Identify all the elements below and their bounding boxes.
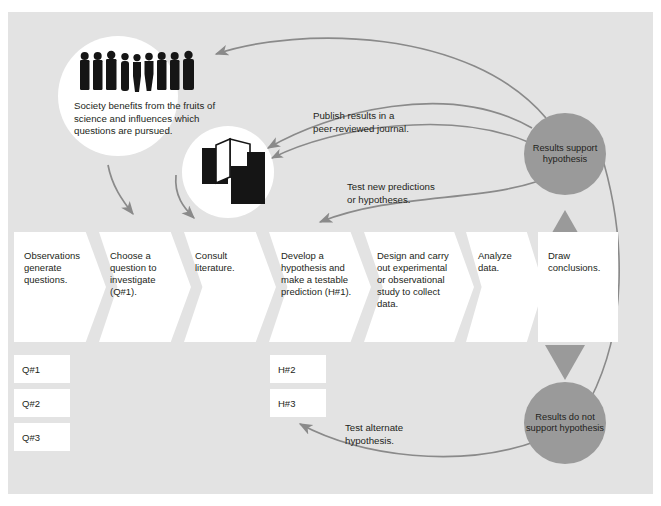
outcome-results-support-label: Results support hypothesis: [524, 143, 606, 166]
question-box-q1-label: Q#1: [22, 364, 40, 376]
annotation-test-alternate-line1: Test alternate: [345, 421, 495, 434]
outcome-results-support[interactable]: Results support hypothesis: [524, 113, 606, 195]
flow-step-consult-label: Consult literature.: [195, 250, 255, 274]
outcome-results-not-support[interactable]: Results do not support hypothesis: [524, 382, 606, 464]
literature-halo: [182, 126, 274, 218]
flow-step-analyze-label: Analyze data.: [478, 250, 530, 274]
question-box-q3-label: Q#3: [22, 432, 40, 444]
annotation-test-alternate-line2: hypothesis.: [345, 434, 495, 447]
flow-step-choose-label: Choose a question to investigate (Q#1).: [110, 250, 172, 298]
question-box-q2-label: Q#2: [22, 398, 40, 410]
annotation-test-new-line2: or hypotheses.: [347, 193, 497, 206]
annotation-publish-line1: Publish results in a: [313, 109, 463, 122]
annotation-test-alternate: Test alternate hypothesis.: [345, 421, 495, 447]
society-halo: [58, 36, 178, 156]
annotation-test-new-line1: Test new predictions: [347, 180, 497, 193]
annotation-test-new: Test new predictions or hypotheses.: [347, 180, 497, 206]
annotation-publish: Publish results in a peer-reviewed journ…: [313, 109, 463, 135]
flow-step-conclusions-label: Draw conclusions.: [548, 250, 610, 274]
hypothesis-box-h3-label: H#3: [278, 398, 295, 410]
diagram-canvas: Society benefits from the fruits of scie…: [0, 0, 661, 506]
flow-step-design-label: Design and carry out experimental or obs…: [377, 250, 457, 310]
flow-step-conclusions[interactable]: [538, 232, 618, 342]
society-caption: Society benefits from the fruits of scie…: [74, 100, 226, 138]
flow-step-hypothesis-label: Develop a hypothesis and make a testable…: [281, 250, 353, 298]
outcome-results-not-support-label: Results do not support hypothesis: [524, 412, 606, 435]
annotation-publish-line2: peer-reviewed journal.: [313, 122, 463, 135]
flow-step-observations-label: Observations generate questions.: [24, 250, 90, 286]
hypothesis-box-h2-label: H#2: [278, 364, 295, 376]
